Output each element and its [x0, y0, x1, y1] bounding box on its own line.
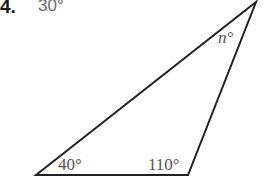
- angle-label-bottom-left: 40°: [58, 155, 82, 174]
- triangle-figure: 40° 110° n°: [0, 0, 265, 180]
- angle-label-top: n°: [218, 28, 234, 47]
- angle-label-bottom-right: 110°: [148, 155, 180, 174]
